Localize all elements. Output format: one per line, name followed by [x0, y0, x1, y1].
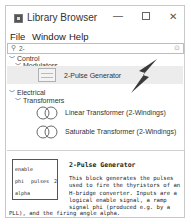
- tree-node-transformers[interactable]: ﹀Transformers: [15, 96, 64, 105]
- tree-item-linear-transformer[interactable]: Linear Transformer (2-Windings): [65, 109, 166, 116]
- menu-file[interactable]: File: [10, 31, 25, 42]
- block-preview: enable phi pulses 2 alpha: [12, 159, 58, 200]
- drag-cursor-icon: [129, 59, 159, 95]
- app-icon: [14, 14, 23, 23]
- tree-item-saturable-transformer[interactable]: Saturable Transformer (2-Windings): [65, 128, 176, 135]
- port-pulses: pulses: [31, 178, 49, 184]
- library-tree: ﹀Control ﹀Modulators 2-Pulse Generator ﹀…: [7, 54, 185, 150]
- port-pulses-width: 2: [54, 178, 57, 184]
- port-alpha: alpha: [15, 190, 30, 196]
- clear-icon[interactable]: ⊙: [174, 44, 180, 52]
- search-input[interactable]: 2-: [19, 45, 25, 52]
- library-browser-window: Library Browser — ✕ File Window Help ⚲ 2…: [5, 5, 185, 218]
- port-enable: enable: [15, 166, 33, 172]
- transformer-icon: [34, 106, 60, 120]
- minimize-button[interactable]: —: [110, 10, 126, 21]
- chevron-down-icon[interactable]: ﹀: [15, 98, 21, 104]
- menu-window[interactable]: Window: [32, 31, 66, 42]
- close-button[interactable]: ✕: [165, 11, 181, 22]
- description-title: 2-Pulse Generator: [69, 161, 136, 169]
- search-icon: ⚲: [11, 44, 16, 52]
- pulse-generator-block-icon: [38, 68, 56, 82]
- port-phi: phi: [15, 178, 24, 184]
- window-title: Library Browser: [27, 12, 97, 23]
- description-text-tail: PLL), and the firing angle alpha.: [9, 210, 120, 216]
- tree-item-label: 2-Pulse Generator: [64, 72, 121, 79]
- maximize-icon: [142, 12, 150, 20]
- description-text: This block generates the pulses used to …: [69, 175, 181, 211]
- transformer-icon: [34, 125, 60, 139]
- search-field[interactable]: ⚲ 2- ⊙: [7, 43, 184, 54]
- description-panel: enable phi pulses 2 alpha 2-Pulse Genera…: [7, 150, 184, 216]
- title-bar: Library Browser — ✕: [6, 6, 184, 30]
- menu-help[interactable]: Help: [69, 31, 89, 42]
- maximize-button[interactable]: [138, 11, 154, 22]
